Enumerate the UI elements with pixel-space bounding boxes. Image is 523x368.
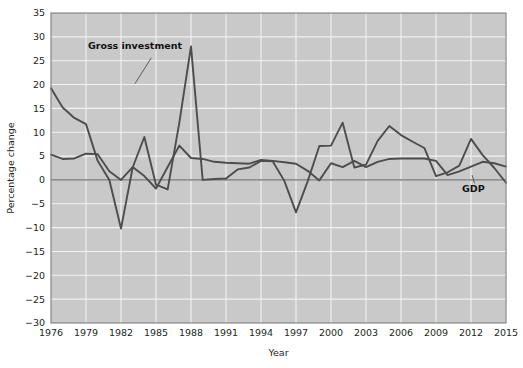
chart-container: −30−25−20−15−10−505101520253035197619791… bbox=[0, 0, 523, 368]
y-axis-tick-label: 25 bbox=[33, 55, 45, 66]
x-axis-tick-label: 2009 bbox=[424, 327, 448, 338]
y-axis-tick-label: 5 bbox=[39, 150, 45, 161]
x-axis-tick-label: 1979 bbox=[74, 327, 98, 338]
x-axis-tick-label: 2000 bbox=[319, 327, 343, 338]
x-axis-tick-label: 1982 bbox=[109, 327, 133, 338]
gdp-annotation-label: GDP bbox=[462, 183, 485, 194]
y-axis-tick-label: 0 bbox=[39, 174, 45, 185]
x-axis-tick-label: 1985 bbox=[144, 327, 168, 338]
gross-investment-annotation-label: Gross investment bbox=[88, 40, 183, 51]
y-axis-tick-label: −20 bbox=[25, 270, 45, 281]
x-axis-tick-label: 1997 bbox=[284, 327, 308, 338]
x-axis-title: Year bbox=[267, 347, 288, 358]
x-axis-tick-label: 2015 bbox=[494, 327, 518, 338]
x-axis-tick-label: 2006 bbox=[389, 327, 413, 338]
y-axis-tick-label: 30 bbox=[33, 31, 45, 42]
x-axis-tick-label: 1988 bbox=[179, 327, 203, 338]
x-axis-tick-label: 2003 bbox=[354, 327, 378, 338]
y-axis-tick-label: −25 bbox=[25, 294, 45, 305]
x-axis-tick-label: 2012 bbox=[459, 327, 483, 338]
plot-background bbox=[51, 13, 506, 323]
x-axis-tick-label: 1994 bbox=[249, 327, 273, 338]
x-axis-tick-label: 1976 bbox=[39, 327, 63, 338]
y-axis-tick-label: −5 bbox=[31, 198, 45, 209]
y-axis-tick-label: 35 bbox=[33, 7, 45, 18]
y-axis-title: Percentage change bbox=[5, 122, 16, 214]
y-axis-tick-label: 10 bbox=[33, 127, 45, 138]
x-axis-tick-label: 1991 bbox=[214, 327, 238, 338]
y-axis-tick-label: 20 bbox=[33, 79, 45, 90]
y-axis-tick-label: 15 bbox=[33, 103, 45, 114]
y-axis-tick-label: −10 bbox=[25, 222, 45, 233]
percentage-change-line-chart: −30−25−20−15−10−505101520253035197619791… bbox=[0, 0, 523, 368]
y-axis-tick-label: −15 bbox=[25, 246, 45, 257]
